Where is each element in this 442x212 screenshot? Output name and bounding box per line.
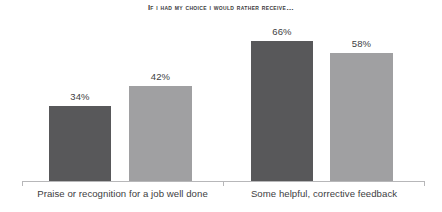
chart-title: If I had my choice I would rather receiv… xyxy=(0,3,442,12)
bar-group-item: 66% xyxy=(251,41,313,181)
bar-value-label: 66% xyxy=(272,26,291,37)
bar-group-item: 34% xyxy=(49,106,111,181)
plot-area: 34% 42% 66% 58% xyxy=(0,18,442,181)
axis-tick-middle xyxy=(223,181,224,186)
bar-rect xyxy=(330,53,393,181)
bar-value-label: 58% xyxy=(352,38,371,49)
bar-chart: If I had my choice I would rather receiv… xyxy=(0,0,442,212)
bar-group-item: 58% xyxy=(330,53,393,181)
bar-value-label: 42% xyxy=(151,71,170,82)
category-label-0: Praise or recognition for a job well don… xyxy=(22,188,223,199)
bar-value-label: 34% xyxy=(70,91,89,102)
bar-rect xyxy=(251,41,313,181)
bar-rect xyxy=(129,86,192,181)
category-label-1: Some helpful, corrective feedback xyxy=(223,188,425,199)
axis-tick-right xyxy=(424,181,425,186)
bar-rect xyxy=(49,106,111,181)
axis-tick-left xyxy=(22,181,23,186)
bar-group-item: 42% xyxy=(129,86,192,181)
